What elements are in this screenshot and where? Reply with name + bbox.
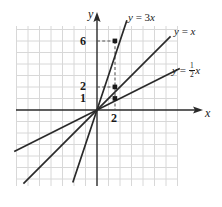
fraction-denominator: 2 bbox=[189, 71, 195, 79]
equation-label-y-3x: y = 3x bbox=[128, 12, 155, 23]
point-2-6 bbox=[113, 39, 118, 44]
eq-y-half-x-fraction: 12 bbox=[189, 62, 195, 78]
eq-y-half-x-var: x bbox=[195, 64, 200, 76]
point-2-1 bbox=[113, 96, 118, 101]
y-tick-label-6: 6 bbox=[80, 35, 86, 47]
equation-label-y-x: y = x bbox=[174, 26, 196, 37]
equation-label-y-half-x: y = 12x bbox=[172, 62, 200, 78]
point-2-2 bbox=[113, 85, 118, 90]
x-axis-name: x bbox=[205, 107, 210, 119]
eq-y-3x-var: x bbox=[150, 11, 155, 23]
y-axis-name: y bbox=[88, 8, 93, 20]
x-tick-label-2: 2 bbox=[111, 112, 117, 124]
eq-y-x-var: x bbox=[191, 25, 196, 37]
graph-figure: 6 2 1 2 y x y = 3x y = x y = 12x bbox=[0, 0, 222, 207]
y-tick-label-1: 1 bbox=[80, 92, 86, 104]
